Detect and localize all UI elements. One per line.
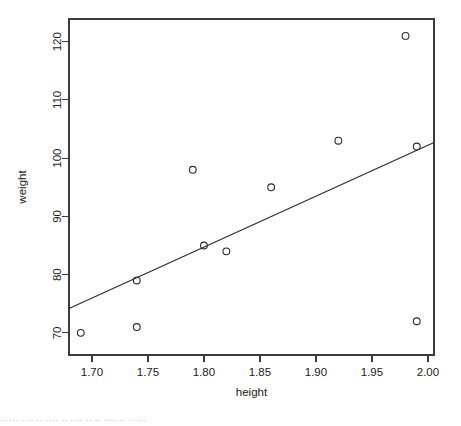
- y-tick-label: 70: [51, 326, 63, 339]
- scatter-plot-figure: 1.701.751.801.851.901.952.00 70809010011…: [0, 0, 461, 426]
- y-axis: 708090100110120: [51, 32, 69, 339]
- data-point: [402, 32, 409, 39]
- data-point: [335, 137, 342, 144]
- x-tick-label: 1.90: [305, 366, 327, 378]
- x-axis-title: height: [236, 386, 268, 398]
- x-tick-label: 1.85: [249, 366, 271, 378]
- regression-line: [69, 142, 434, 308]
- x-tick-label: 1.80: [193, 366, 215, 378]
- axis-titles: heightweight: [16, 170, 268, 398]
- data-point: [77, 329, 84, 336]
- data-point: [189, 166, 196, 173]
- regression-line-path: [69, 142, 434, 308]
- data-point: [133, 324, 140, 331]
- x-axis: 1.701.751.801.851.901.952.00: [81, 355, 439, 378]
- chart-canvas: 1.701.751.801.851.901.952.00 70809010011…: [0, 0, 461, 426]
- x-tick-label: 1.70: [81, 366, 103, 378]
- y-tick-label: 110: [51, 91, 63, 109]
- data-points: [77, 32, 420, 336]
- x-tick-label: 2.00: [417, 366, 439, 378]
- plot-border: [69, 19, 434, 355]
- y-tick-label: 80: [51, 268, 63, 281]
- footer-caption-sliver: ·· ··· · ·· ·· ···· ·· ···· ·· ·· ···· ·…: [0, 416, 461, 426]
- y-tick-label: 100: [51, 149, 63, 168]
- x-tick-label: 1.75: [137, 366, 159, 378]
- y-tick-label: 90: [51, 210, 63, 223]
- data-point: [413, 143, 420, 150]
- plot-frame: [69, 19, 434, 355]
- y-tick-label: 120: [51, 32, 63, 51]
- x-tick-label: 1.95: [361, 366, 383, 378]
- data-point: [413, 318, 420, 325]
- y-axis-title: weight: [16, 170, 28, 205]
- data-point: [223, 248, 230, 255]
- data-point: [268, 184, 275, 191]
